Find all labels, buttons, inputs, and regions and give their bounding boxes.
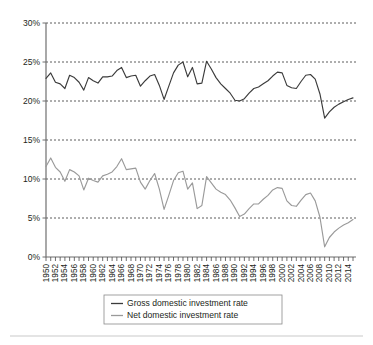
x-axis-tick-label: 1980 (183, 264, 192, 283)
y-axis-tick-label: 30% (23, 18, 40, 28)
x-axis-tick-label: 1984 (202, 264, 211, 283)
y-axis-tick-label: 15% (23, 135, 40, 145)
line-chart: 0%5%10%15%20%25%30% 19501952195419561958… (0, 0, 373, 345)
chart-figure: 0%5%10%15%20%25%30% 19501952195419561958… (0, 0, 373, 345)
x-axis-tick-label: 1978 (174, 264, 183, 283)
x-axis-tick-label: 2012 (334, 264, 343, 283)
x-axis-tick-label: 1958 (79, 264, 88, 283)
x-axis-tick-label: 2014 (344, 264, 353, 283)
x-axis-tick-label: 1960 (89, 264, 98, 283)
x-axis-tick-label: 1998 (268, 264, 277, 283)
x-axis-tick-label: 2006 (306, 264, 315, 283)
x-axis-tick-label: 1972 (145, 264, 154, 283)
chart-legend: Gross domestic investment rate Net domes… (104, 295, 282, 324)
x-axis-tick-label: 1964 (108, 264, 117, 283)
x-axis-tick-label: 2002 (287, 264, 296, 283)
y-axis-labels: 0%5%10%15%20%25%30% (23, 18, 40, 262)
x-axis-tick-label: 1994 (249, 264, 258, 283)
x-axis-tick-label: 1996 (259, 264, 268, 283)
series-line-gross (46, 61, 353, 118)
x-axis-labels: 1950195219541956195819601962196419661968… (42, 264, 353, 283)
y-axis-tick-label: 25% (23, 57, 40, 67)
x-axis-tick-label: 1988 (221, 264, 230, 283)
x-axis-tick-label: 1976 (164, 264, 173, 283)
x-axis-tick-label: 1982 (193, 264, 202, 283)
series-line-net (46, 158, 353, 247)
y-axis-tick-label: 5% (28, 213, 41, 223)
legend-label-net: Net domestic investment rate (127, 310, 239, 320)
x-axis-tick-label: 2004 (297, 264, 306, 283)
y-axis-tick-label: 20% (23, 96, 40, 106)
x-axis-tick-label: 1956 (70, 264, 79, 283)
x-axis-tick-label: 2000 (278, 264, 287, 283)
x-axis-tick-label: 1966 (117, 264, 126, 283)
x-axis-tick-label: 1986 (212, 264, 221, 283)
x-axis-tick-label: 1974 (155, 264, 164, 283)
x-axis-tick-label: 1962 (98, 264, 107, 283)
x-axis-tick-label: 1992 (240, 264, 249, 283)
x-axis-tick-label: 1968 (127, 264, 136, 283)
y-axis-tick-label: 10% (23, 174, 40, 184)
x-axis-tick-label: 2010 (325, 264, 334, 283)
x-axis-tick-label: 1952 (51, 264, 60, 283)
gridlines (46, 23, 356, 218)
legend-label-gross: Gross domestic investment rate (127, 298, 248, 308)
data-series-group (46, 61, 353, 247)
x-axis-tick-label: 1970 (136, 264, 145, 283)
x-axis-tick-label: 1954 (60, 264, 69, 283)
y-axis-tick-label: 0% (28, 252, 41, 262)
x-axis-tick-label: 1990 (230, 264, 239, 283)
x-axis-tick-label: 1950 (42, 264, 51, 283)
x-axis-tick-label: 2008 (315, 264, 324, 283)
